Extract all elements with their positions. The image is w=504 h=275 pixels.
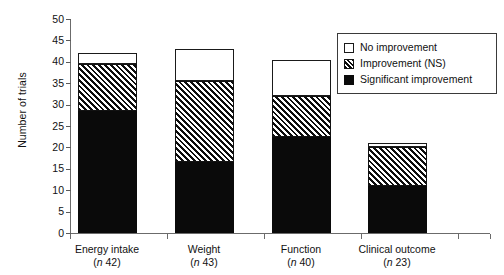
y-axis-tick-label: 15 xyxy=(38,163,64,173)
x-axis-tick-mark xyxy=(361,234,362,239)
y-axis-tick-mark xyxy=(66,126,71,127)
bar-group xyxy=(78,19,137,233)
x-axis-category-name: Energy intake xyxy=(75,243,139,255)
y-axis-tick-mark xyxy=(66,147,71,148)
x-axis-tick-mark xyxy=(167,234,168,239)
bar-segment-significant-improvement xyxy=(368,186,427,233)
legend-item-improvement-ns: Improvement (NS) xyxy=(344,56,490,71)
bar-segment-improvement-ns xyxy=(368,147,427,186)
bar-group xyxy=(175,19,234,233)
y-axis-tick-label: 35 xyxy=(38,78,64,88)
bar-segment-significant-improvement xyxy=(272,137,331,233)
y-axis-tick-label: 25 xyxy=(38,121,64,131)
chart-legend: No improvement Improvement (NS) Signific… xyxy=(337,33,497,94)
legend-item-significant-improvement: Significant improvement xyxy=(344,72,490,87)
bar-group xyxy=(272,19,331,233)
x-axis-tick-mark xyxy=(264,234,265,239)
y-axis-tick-mark xyxy=(66,190,71,191)
x-axis-category-name: Clinical outcome xyxy=(358,243,435,255)
stacked-bar-chart: Number of trials 50454035302520151050 En… xyxy=(0,0,504,275)
black-square-icon xyxy=(344,75,354,85)
x-axis-tick-mark xyxy=(70,234,71,239)
white-square-icon xyxy=(344,43,354,53)
y-axis-tick-label: 20 xyxy=(38,142,64,152)
x-axis-category-label: Clinical outcome(n 23) xyxy=(327,243,467,268)
x-axis-category-name: Function xyxy=(281,243,321,255)
y-axis-tick-mark xyxy=(66,62,71,63)
x-axis-tick-mark xyxy=(490,234,491,239)
y-axis-tick-mark xyxy=(66,83,71,84)
hatched-square-icon xyxy=(344,59,354,69)
bar-segment-significant-improvement xyxy=(78,111,137,233)
y-axis-tick-label: 5 xyxy=(38,206,64,216)
legend-item-no-improvement: No improvement xyxy=(344,40,490,55)
y-axis-tick-label: 50 xyxy=(38,14,64,24)
y-axis-tick-label: 10 xyxy=(38,185,64,195)
legend-item-label: No improvement xyxy=(360,42,437,53)
bar-segment-no-improvement xyxy=(272,60,331,96)
legend-item-label: Significant improvement xyxy=(360,74,472,85)
bar-segment-significant-improvement xyxy=(175,162,234,233)
y-axis-title: Number of trials xyxy=(16,30,28,190)
bar-segment-no-improvement xyxy=(175,49,234,81)
y-axis-tick-label: 30 xyxy=(38,99,64,109)
y-axis-tick-mark xyxy=(66,105,71,106)
y-axis-tick-mark xyxy=(66,169,71,170)
x-axis-category-name: Weight xyxy=(188,243,221,255)
y-axis-tick-mark xyxy=(66,212,71,213)
x-axis-line xyxy=(70,233,490,234)
y-axis-tick-mark xyxy=(66,19,71,20)
x-axis-category-sample-size: (n 23) xyxy=(327,256,467,269)
y-axis-tick-label: 0 xyxy=(38,228,64,238)
y-axis-tick-mark xyxy=(66,40,71,41)
y-axis-tick-label: 40 xyxy=(38,56,64,66)
legend-item-label: Improvement (NS) xyxy=(360,58,446,69)
bar-segment-no-improvement xyxy=(368,143,427,147)
bar-segment-improvement-ns xyxy=(78,64,137,111)
y-axis-tick-label: 45 xyxy=(38,35,64,45)
x-axis-tick-mark xyxy=(458,234,459,239)
bar-segment-improvement-ns xyxy=(175,81,234,162)
bar-segment-no-improvement xyxy=(78,53,137,64)
bar-segment-improvement-ns xyxy=(272,96,331,137)
